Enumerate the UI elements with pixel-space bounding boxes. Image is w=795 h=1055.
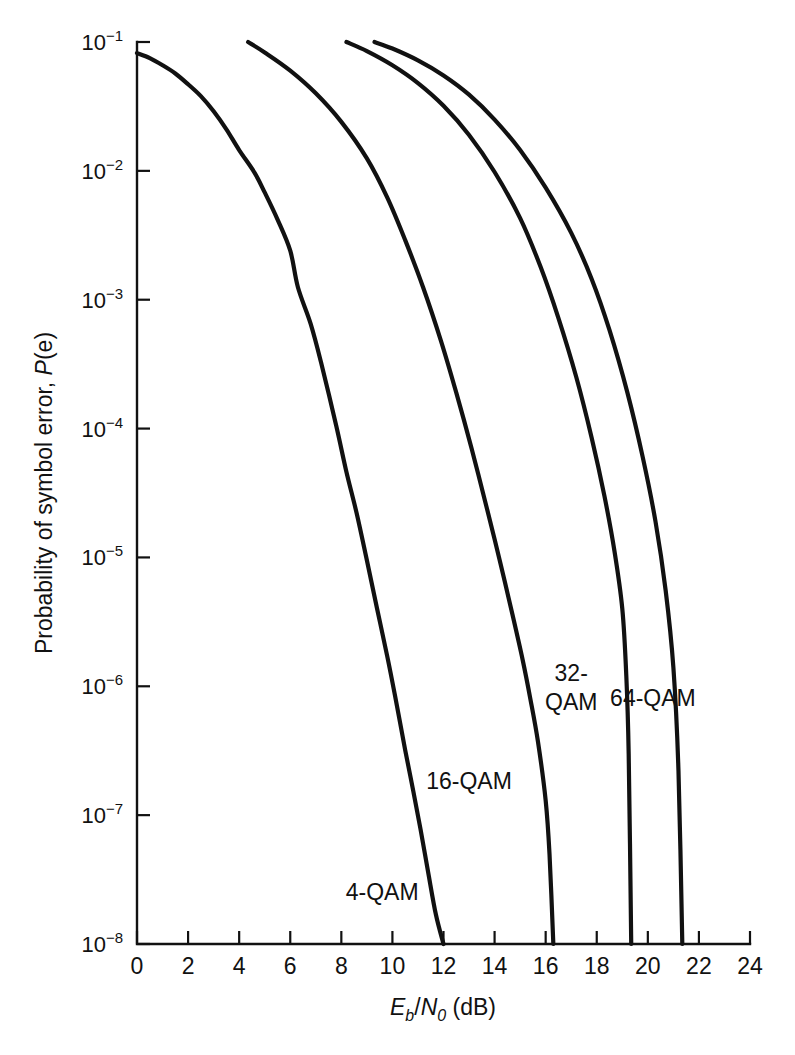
series-label-16-qam: 16-QAM xyxy=(426,768,512,794)
x-title-e: E xyxy=(390,994,406,1020)
x-tick-label-4: 4 xyxy=(233,953,246,979)
y-tick-label-1e-3: 10−3 xyxy=(81,285,123,313)
y-title-tail: (e) xyxy=(31,332,57,360)
y-tick-label-1e-1: 10−1 xyxy=(81,27,123,55)
y-tick-label-1e-7: 10−7 xyxy=(81,800,123,828)
series-labels: 4-QAM16-QAM32-QAM64-QAM xyxy=(346,660,696,905)
data-curves xyxy=(137,42,682,944)
figure-container: 024681012141618202224 10−110−210−310−410… xyxy=(0,0,795,1055)
y-tick-labels: 10−110−210−310−410−510−610−710−8 xyxy=(81,27,123,957)
y-title-italic: P xyxy=(31,359,57,375)
y-tick-label-1e-5: 10−5 xyxy=(81,542,123,570)
x-tick-label-14: 14 xyxy=(482,953,508,979)
x-tick-label-20: 20 xyxy=(635,953,661,979)
curve-16-qam xyxy=(248,42,553,944)
svg-text:Probability of symbol error, P: Probability of symbol error, P(e) xyxy=(31,332,57,654)
x-title-zero: 0 xyxy=(437,1007,446,1024)
y-tick-label-1e-8: 10−8 xyxy=(81,929,123,957)
curve-32-qam xyxy=(346,42,631,944)
y-tick-label-1e-6: 10−6 xyxy=(81,671,123,699)
x-tick-label-24: 24 xyxy=(737,953,763,979)
x-title-n: N xyxy=(421,994,438,1020)
x-tick-label-0: 0 xyxy=(131,953,144,979)
curve-64-qam xyxy=(375,42,683,944)
y-title-lead: Probability of symbol error, xyxy=(31,375,57,654)
y-axis-title: Probability of symbol error, P(e) xyxy=(31,332,57,654)
x-tick-label-2: 2 xyxy=(182,953,195,979)
series-label-32-qam: 32-QAM xyxy=(545,660,597,715)
x-tick-label-10: 10 xyxy=(380,953,406,979)
x-tick-label-16: 16 xyxy=(533,953,559,979)
x-tick-label-22: 22 xyxy=(686,953,712,979)
x-axis-title: Eb/N0 (dB) xyxy=(390,994,496,1024)
series-label-64-qam: 64-QAM xyxy=(610,685,696,711)
x-tick-label-6: 6 xyxy=(284,953,297,979)
curve-4-qam xyxy=(137,53,444,944)
y-tick-label-1e-2: 10−2 xyxy=(81,156,123,184)
x-tick-label-8: 8 xyxy=(335,953,348,979)
svg-text:Eb/N0 (dB): Eb/N0 (dB) xyxy=(390,994,496,1024)
tick-marks xyxy=(137,42,750,944)
qam-symbol-error-chart: 024681012141618202224 10−110−210−310−410… xyxy=(0,0,795,1055)
x-title-unit: (dB) xyxy=(446,994,496,1020)
x-tick-labels: 024681012141618202224 xyxy=(131,953,763,979)
x-tick-label-18: 18 xyxy=(584,953,610,979)
y-tick-label-1e-4: 10−4 xyxy=(81,414,123,442)
axes xyxy=(137,42,750,944)
x-tick-label-12: 12 xyxy=(431,953,457,979)
series-label-4-qam: 4-QAM xyxy=(346,879,419,905)
x-title-b: b xyxy=(405,1007,414,1024)
axis-spine xyxy=(137,42,750,944)
